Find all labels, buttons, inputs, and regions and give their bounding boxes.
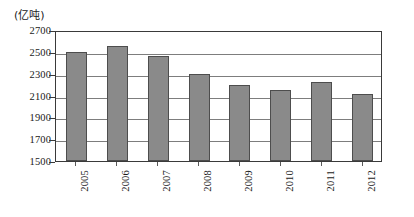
x-axis-tick-label: 2006 [121, 170, 132, 192]
y-axis-tick-label: 2100 [30, 91, 51, 102]
bar [229, 85, 250, 161]
y-axis-tick-label: 1500 [30, 157, 51, 168]
bar-slot [342, 30, 383, 161]
x-axis-tick-label: 2008 [203, 170, 214, 192]
bar-chart-figure: (亿吨) 2700250023002100190017001500 200520… [0, 0, 414, 217]
y-axis-tick-label: 2700 [30, 26, 51, 37]
x-axis-tick-label: 2012 [367, 170, 378, 192]
x-axis-tick-mark [116, 162, 117, 166]
x-axis-tick-mark [75, 162, 76, 166]
bar [270, 90, 291, 162]
x-axis-tick-mark [198, 162, 199, 166]
bar-slot [220, 30, 261, 161]
bar-slot [56, 30, 97, 161]
bar [66, 52, 87, 161]
y-axis-tick-label: 2300 [30, 69, 51, 80]
y-axis-tick-label: 1900 [30, 113, 51, 124]
bar-slot [97, 30, 138, 161]
x-axis-tick-mark [362, 162, 363, 166]
y-axis-tick-label: 1700 [30, 135, 51, 146]
x-axis-tick-label: 2011 [326, 170, 337, 191]
x-axis-tick-label: 2010 [285, 170, 296, 192]
x-axis-tick-mark [321, 162, 322, 166]
bar [148, 56, 169, 161]
y-axis-tick-mark [49, 162, 55, 163]
bar [189, 74, 210, 161]
bar-slot [179, 30, 220, 161]
bar-slot [301, 30, 342, 161]
bar [107, 46, 128, 161]
bar [311, 82, 332, 161]
x-axis-tick-label: 2007 [162, 170, 173, 192]
x-axis-tick-mark [280, 162, 281, 166]
x-axis-tick-label: 2009 [244, 170, 255, 192]
bar [352, 94, 373, 161]
x-axis-tick-mark [239, 162, 240, 166]
y-axis-tick-label: 2500 [30, 48, 51, 59]
x-axis-tick-mark [157, 162, 158, 166]
plot-area [55, 31, 382, 162]
bar-slot [260, 30, 301, 161]
x-axis-tick-label: 2005 [80, 170, 91, 192]
y-axis-unit-label: (亿吨) [14, 9, 45, 22]
bar-slot [138, 30, 179, 161]
